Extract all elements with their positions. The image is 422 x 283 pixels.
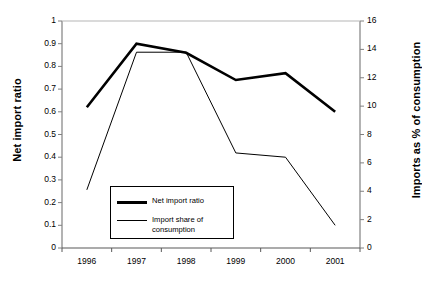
right-tick-label: 4 [367, 185, 391, 195]
left-tick-label: 0.7 [20, 83, 56, 93]
left-tick-label: 0.5 [20, 129, 56, 139]
right-tick-label: 6 [367, 157, 391, 167]
left-tick-label: 0.2 [20, 197, 56, 207]
legend-label: Import share of consumption [152, 215, 203, 234]
legend-label: Net import ratio [152, 196, 204, 206]
legend-entry-import-share: Import share of consumption [117, 215, 203, 234]
right-tick-label: 12 [367, 72, 391, 82]
left-tick-label: 0.8 [20, 60, 56, 70]
x-tick-label: 2000 [262, 256, 310, 266]
left-tick-label: 0.3 [20, 174, 56, 184]
left-tick-label: 0.1 [20, 219, 56, 229]
x-axis-ticks [62, 248, 360, 252]
right-tick-label: 14 [367, 43, 391, 53]
right-tick-label: 16 [367, 15, 391, 25]
left-tick-label: 0.4 [20, 151, 56, 161]
right-tick-label: 0 [367, 242, 391, 252]
left-tick-label: 0.6 [20, 106, 56, 116]
right-tick-label: 2 [367, 214, 391, 224]
chart-legend: Net import ratio Import share of consump… [110, 186, 234, 239]
left-tick-label: 1 [20, 15, 56, 25]
legend-line-swatch-thick-icon [117, 196, 147, 207]
legend-line-swatch-thin-icon [117, 215, 147, 226]
x-tick-label: 1998 [162, 256, 210, 266]
x-tick-label: 2001 [311, 256, 359, 266]
right-tick-label: 10 [367, 100, 391, 110]
right-axis-title: Imports as % of consumption [410, 5, 422, 235]
left-tick-label: 0 [20, 242, 56, 252]
legend-entry-net-import-ratio: Net import ratio [117, 196, 204, 207]
right-tick-label: 8 [367, 129, 391, 139]
left-tick-label: 0.9 [20, 38, 56, 48]
x-tick-label: 1997 [113, 256, 161, 266]
x-tick-label: 1999 [212, 256, 260, 266]
x-tick-label: 1996 [63, 256, 111, 266]
